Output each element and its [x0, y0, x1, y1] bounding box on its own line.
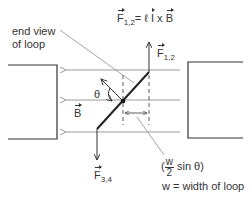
left-magnet-pole: [8, 65, 57, 139]
force-eq-l: = ℓ: [135, 12, 151, 24]
f12-F: F: [157, 48, 164, 59]
f12-sub: 1,2: [164, 53, 175, 62]
f12-label: F1,2: [157, 48, 175, 62]
force-eq-cross: x: [154, 12, 166, 24]
end-view-pointer: [60, 30, 134, 83]
dimension-pointer: [137, 117, 164, 155]
normal-vector: [101, 79, 123, 101]
of-loop-label: of loop: [12, 39, 45, 50]
f34-label: F3,4: [94, 170, 112, 184]
force-eq-F: F: [117, 13, 124, 24]
force-eq-B: B: [166, 13, 173, 24]
f34-sub: 3,4: [101, 175, 112, 184]
B-label: B: [74, 108, 81, 119]
end-view-text: end view: [12, 25, 55, 37]
theta-label: θ: [94, 89, 100, 100]
f34-F: F: [94, 170, 101, 181]
force-equation: F1,2= ℓ I x B: [117, 13, 173, 27]
of-loop-text: of loop: [12, 38, 45, 50]
theta-text: θ: [94, 88, 100, 100]
B-text: B: [74, 108, 81, 119]
end-view-label: end view: [12, 26, 55, 37]
right-magnet-pole: [188, 62, 243, 138]
force-eq-sub: 1,2: [124, 18, 135, 27]
frac-den: 2: [165, 168, 174, 178]
force-eq-I: I: [151, 13, 154, 24]
w-over-2: w2: [165, 157, 174, 178]
sin-theta: sin θ): [177, 160, 204, 172]
width-definition: w = width of loop: [162, 181, 244, 192]
width-def-text: w = width of loop: [162, 180, 244, 192]
half-width-sin-label: (w2 sin θ): [161, 157, 204, 178]
